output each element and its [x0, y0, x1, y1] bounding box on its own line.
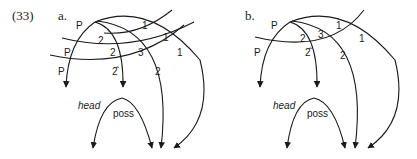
panel-a-head-label: head [78, 100, 101, 111]
panel-b-p-arc [260, 22, 290, 87]
panel-b-label-2-upper: 2 [300, 33, 306, 44]
panel-b-outer-arc [290, 16, 399, 148]
panel-b-poss-arc [314, 98, 345, 148]
panel-a-label-p-mid: P [64, 47, 71, 58]
panel-b-label-2-right: 2 [340, 50, 346, 61]
panel-b-label-p-top: P [271, 20, 278, 31]
panel-a-outer-arc [95, 16, 204, 148]
panel-b-head-label: head [273, 100, 296, 111]
panel-a-label-p-low: P [58, 66, 65, 77]
panel-a-label-2-right: 2 [155, 66, 161, 77]
panel-a-poss-label: poss [113, 108, 134, 119]
panel-b-label-3: 3 [318, 29, 324, 40]
panel-b-poss-label: poss [307, 108, 328, 119]
panel-b-label: b. [245, 8, 255, 23]
panel-a-label-1-right: 1 [177, 47, 183, 58]
panel-a-label-2-mid: 2 [110, 47, 116, 58]
panel-b-label-1-top: 1 [336, 20, 342, 31]
panel-a-label: a. [58, 8, 67, 23]
panel-a-label-2-upper: 2 [98, 35, 104, 46]
panel-b-label-2-hat: 2̂ [305, 47, 313, 58]
panel-a-1-2-arc [97, 21, 163, 148]
panel-a-poss-arc [122, 98, 152, 148]
panel-b-label-p-low: P [254, 47, 261, 58]
panel-a-stratum-1-curve [104, 10, 172, 33]
panel-a-label-p-top: P [76, 20, 83, 31]
panel-a-label-2-hat: 2̂ [112, 66, 120, 77]
panel-a-label-1-mid: 1 [163, 32, 169, 43]
panel-b-label-1-right: 1 [359, 33, 365, 44]
example-number: (33) [12, 8, 34, 23]
panel-a-label-1-top: 1 [142, 20, 148, 31]
panel-b: b. P 2 P 2̂ 1 3 1 2 head poss [245, 8, 399, 148]
relational-network-diagram: (33) a. P 2 P 2 P 2̂ 1 1 1 3 2 head poss… [0, 0, 417, 159]
panel-a-label-3: 3 [138, 47, 144, 58]
panel-a: a. P 2 P 2 P 2̂ 1 1 1 3 2 head poss [50, 8, 204, 148]
panel-b-2-arc [290, 22, 317, 87]
